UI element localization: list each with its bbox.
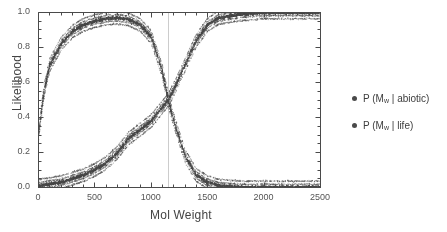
y-tick-label: 0.4 bbox=[6, 111, 30, 121]
legend-abiotic-tail: | abiotic) bbox=[389, 93, 429, 104]
y-tick-label: 0.2 bbox=[6, 146, 30, 156]
x-axis-label: Mol Weight bbox=[116, 208, 246, 222]
legend-marker-life-icon bbox=[352, 123, 357, 128]
legend-life-main: P (M bbox=[363, 120, 384, 131]
x-tick-label: 2500 bbox=[300, 192, 340, 202]
legend-item-life[interactable]: P (Mw | life) bbox=[352, 120, 413, 131]
legend-life-tail: | life) bbox=[389, 120, 413, 131]
x-tick-label: 2000 bbox=[244, 192, 284, 202]
x-tick-label: 500 bbox=[74, 192, 114, 202]
legend-label-abiotic: P (Mw | abiotic) bbox=[363, 93, 429, 104]
y-axis-tick-labels: 0.00.20.40.60.81.0 bbox=[0, 0, 30, 232]
legend-abiotic-main: P (M bbox=[363, 93, 384, 104]
x-tick-label: 1500 bbox=[187, 192, 227, 202]
likelihood-scatter-figure: Mol Weight Likelihood 050010001500200025… bbox=[0, 0, 447, 232]
y-tick-label: 0.0 bbox=[6, 181, 30, 191]
legend-label-life: P (Mw | life) bbox=[363, 120, 413, 131]
legend-item-abiotic[interactable]: P (Mw | abiotic) bbox=[352, 93, 429, 104]
y-tick-label: 1.0 bbox=[6, 6, 30, 16]
legend-marker-abiotic-icon bbox=[352, 96, 357, 101]
y-tick-label: 0.8 bbox=[6, 41, 30, 51]
y-tick-label: 0.6 bbox=[6, 76, 30, 86]
x-tick-label: 1000 bbox=[131, 192, 171, 202]
